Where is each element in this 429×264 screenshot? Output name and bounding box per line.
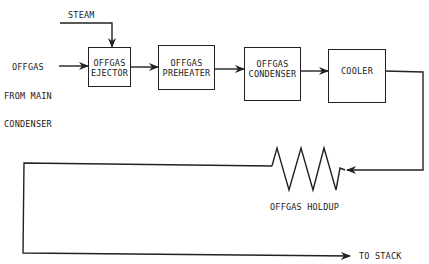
source-line-3: CONDENSER — [4, 120, 52, 130]
block-label: EJECTOR — [91, 68, 128, 78]
source-line-1: OFFGAS — [4, 63, 52, 73]
block-label: COOLER — [341, 66, 373, 76]
block-label: OFFGAS — [171, 58, 203, 68]
offgas-source-label: OFFGAS FROM MAIN CONDENSER — [4, 44, 52, 139]
steam-line — [60, 23, 112, 47]
steam-label: STEAM — [68, 10, 95, 20]
offgas-holdup-label: OFFGAS HOLDUP — [270, 202, 339, 212]
offgas-ejector-block: OFFGAS EJECTOR — [88, 47, 131, 87]
holdup-coil — [272, 148, 345, 190]
to-stack-label: TO STACK — [359, 251, 402, 261]
source-line-2: FROM MAIN — [4, 92, 52, 102]
flow-lines — [0, 0, 429, 264]
block-label: PREHEATER — [163, 68, 211, 78]
block-label: OFFGAS — [94, 58, 126, 68]
offgas-preheater-block: OFFGAS PREHEATER — [158, 45, 215, 90]
block-label: OFFGAS — [257, 59, 289, 69]
offgas-condenser-block: OFFGAS CONDENSER — [244, 47, 301, 101]
block-label: CONDENSER — [249, 69, 297, 79]
cooler-block: COOLER — [328, 49, 386, 103]
